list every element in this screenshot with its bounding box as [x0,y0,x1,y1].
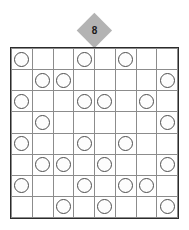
cell-content [95,49,115,69]
grid-cell-empty[interactable] [12,154,33,175]
grid-cell-empty[interactable] [157,175,178,196]
grid-cell-empty[interactable] [157,49,178,70]
cell-content [12,49,32,69]
grid-cell-filled[interactable] [115,49,136,70]
cell-content [157,134,177,154]
cell-content [12,91,32,111]
grid-cell-filled[interactable] [53,196,74,217]
grid-cell-empty[interactable] [136,196,157,217]
circle-token-icon [77,52,92,67]
grid-cell-empty[interactable] [53,133,74,154]
grid-cell-filled[interactable] [53,70,74,91]
grid-cell-filled[interactable] [157,196,178,217]
grid-cell-empty[interactable] [53,91,74,112]
grid-cell-filled[interactable] [74,91,95,112]
grid-table [11,48,178,218]
circle-token-icon [97,157,112,172]
grid-cell-empty[interactable] [53,175,74,196]
cell-content [12,197,32,217]
grid-cell-filled[interactable] [136,91,157,112]
grid-cell-empty[interactable] [115,91,136,112]
circle-token-icon [118,178,133,193]
grid-row [12,49,178,70]
grid-cell-empty[interactable] [115,154,136,175]
puzzle-grid[interactable] [10,47,179,219]
cell-content [95,176,115,196]
cell-content [33,134,53,154]
circle-token-icon [97,199,112,214]
grid-cell-empty[interactable] [136,133,157,154]
grid-cell-filled[interactable] [95,196,116,217]
grid-cell-filled[interactable] [32,112,53,133]
grid-cell-empty[interactable] [32,133,53,154]
cell-content [74,91,94,111]
grid-cell-empty[interactable] [53,112,74,133]
grid-cell-empty[interactable] [136,49,157,70]
grid-cell-filled[interactable] [12,175,33,196]
grid-cell-filled[interactable] [115,175,136,196]
grid-cell-empty[interactable] [12,196,33,217]
grid-cell-empty[interactable] [95,112,116,133]
grid-cell-filled[interactable] [74,175,95,196]
cell-content [33,155,53,175]
grid-cell-filled[interactable] [115,133,136,154]
cell-content [137,155,157,175]
circle-token-icon [14,52,29,67]
circle-token-icon [35,73,50,88]
grid-cell-empty[interactable] [12,112,33,133]
cell-content [74,49,94,69]
grid-cell-empty[interactable] [115,112,136,133]
grid-cell-empty[interactable] [136,70,157,91]
grid-row [12,175,178,196]
cell-content [12,70,32,90]
grid-cell-empty[interactable] [74,112,95,133]
cell-content [74,155,94,175]
grid-cell-empty[interactable] [136,154,157,175]
grid-cell-empty[interactable] [95,175,116,196]
grid-cell-empty[interactable] [95,133,116,154]
grid-cell-empty[interactable] [115,196,136,217]
cell-content [54,134,74,154]
grid-cell-filled[interactable] [32,70,53,91]
grid-cell-filled[interactable] [157,154,178,175]
grid-cell-empty[interactable] [32,196,53,217]
circle-token-icon [77,136,92,151]
circle-token-icon [160,199,175,214]
grid-cell-filled[interactable] [74,133,95,154]
grid-cell-filled[interactable] [32,154,53,175]
grid-cell-empty[interactable] [74,196,95,217]
grid-cell-empty[interactable] [157,91,178,112]
grid-cell-empty[interactable] [32,175,53,196]
grid-cell-empty[interactable] [95,49,116,70]
grid-cell-filled[interactable] [74,49,95,70]
circle-token-icon [160,157,175,172]
cell-content [54,112,74,132]
grid-cell-empty[interactable] [12,70,33,91]
grid-cell-empty[interactable] [136,112,157,133]
grid-cell-filled[interactable] [95,154,116,175]
grid-cell-filled[interactable] [12,91,33,112]
grid-cell-filled[interactable] [136,175,157,196]
grid-cell-filled[interactable] [53,154,74,175]
clue-marker-value: 8 [77,13,112,48]
cell-content [74,176,94,196]
cell-content [116,112,136,132]
grid-cell-empty[interactable] [74,154,95,175]
grid-cell-filled[interactable] [12,133,33,154]
clue-marker-diamond[interactable]: 8 [77,13,112,48]
cell-content [95,134,115,154]
grid-cell-filled[interactable] [157,112,178,133]
grid-cell-empty[interactable] [115,70,136,91]
cell-content [95,197,115,217]
circle-token-icon [97,94,112,109]
grid-cell-empty[interactable] [32,49,53,70]
grid-cell-filled[interactable] [12,49,33,70]
grid-cell-filled[interactable] [95,91,116,112]
grid-cell-empty[interactable] [32,91,53,112]
grid-cell-empty[interactable] [74,70,95,91]
grid-cell-filled[interactable] [157,70,178,91]
grid-cell-empty[interactable] [157,133,178,154]
grid-cell-empty[interactable] [95,70,116,91]
grid-cell-empty[interactable] [53,49,74,70]
cell-content [137,176,157,196]
